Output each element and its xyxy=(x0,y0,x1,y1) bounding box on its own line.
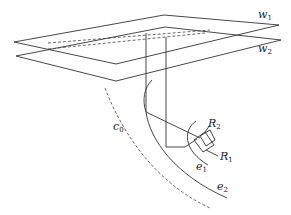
hidden-edge-2 xyxy=(48,33,205,49)
label-e2: e2 xyxy=(217,180,228,194)
label-w1: w1 xyxy=(258,8,272,22)
inner-curve xyxy=(144,80,152,112)
arrow-R1 xyxy=(206,150,218,156)
label-c0: c0 xyxy=(113,120,124,134)
label-R2: R2 xyxy=(207,117,221,131)
label-w2: w2 xyxy=(258,42,272,56)
label-e1: e1 xyxy=(196,160,207,174)
construction-line-2 xyxy=(166,139,197,147)
diagram-canvas: w1 w2 c0 e1 e2 R2 R1 xyxy=(0,0,291,215)
curve-c0 xyxy=(105,88,210,208)
plane-w1 xyxy=(14,15,279,64)
label-R1: R1 xyxy=(219,150,233,164)
